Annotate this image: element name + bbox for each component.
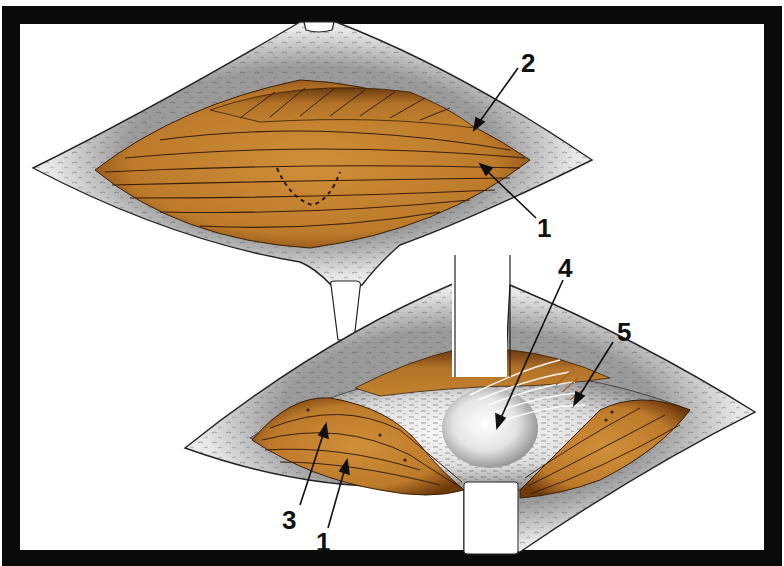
label-1-top: 1 — [537, 215, 551, 241]
label-1-bottom: 1 — [316, 529, 330, 555]
lower-incision — [185, 255, 755, 554]
upper-notch — [304, 22, 334, 32]
upper-retractor-blade — [452, 255, 507, 377]
label-3: 3 — [282, 507, 296, 533]
upper-incision — [33, 22, 592, 340]
label-2: 2 — [521, 50, 535, 76]
lower-retractor-blade — [464, 482, 518, 554]
label-4: 4 — [558, 255, 572, 281]
label-5: 5 — [617, 319, 631, 345]
central-structure — [442, 388, 538, 468]
anatomy-illustration — [0, 0, 784, 566]
figure-frame — [0, 0, 784, 566]
